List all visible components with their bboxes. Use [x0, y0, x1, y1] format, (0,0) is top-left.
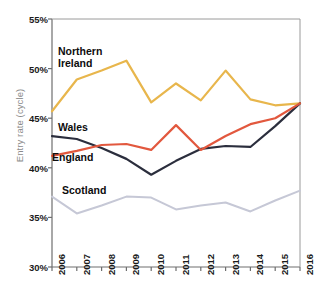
x-tick-2011: 2011 [180, 254, 191, 275]
series-label-northern-ireland-line2: Ireland [58, 57, 92, 69]
x-tick-2010: 2010 [155, 254, 166, 275]
line-chart: Entry rate (cycle) 30%35%40%45%50%55% 20… [0, 0, 315, 305]
series-label-england: England [52, 152, 93, 164]
x-tick-2009: 2009 [130, 254, 141, 275]
x-tick-2012: 2012 [205, 254, 216, 275]
series-label-wales: Wales [58, 122, 88, 134]
x-tick-2013: 2013 [230, 254, 241, 275]
x-axis-tick-labels: 2006200720082009201020112012201320142015… [0, 0, 315, 305]
x-tick-2008: 2008 [106, 254, 117, 275]
x-tick-2014: 2014 [254, 254, 265, 275]
series-label-northern-ireland: NorthernIreland [58, 46, 102, 69]
x-tick-2007: 2007 [81, 254, 92, 275]
x-tick-2006: 2006 [56, 254, 67, 275]
series-label-scotland: Scotland [62, 185, 106, 197]
x-tick-2016: 2016 [304, 254, 315, 275]
x-tick-2015: 2015 [279, 254, 290, 275]
